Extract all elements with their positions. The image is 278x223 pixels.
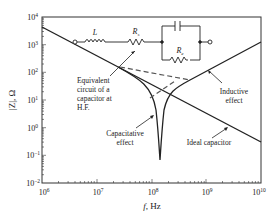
svg-text:10−1: 10−1	[26, 150, 40, 160]
svg-text:102: 102	[27, 67, 38, 77]
arrowhead-inductive	[208, 70, 211, 74]
annotation-equivalent-circuit: Equivalent circuit of a capacitor at H.F…	[77, 76, 113, 112]
arrowhead-ideal	[224, 127, 228, 131]
terminal-right	[208, 40, 212, 44]
svg-text:effect: effect	[226, 96, 244, 105]
arrow-equivalent	[110, 51, 135, 76]
svg-text:1010: 1010	[252, 187, 266, 197]
svg-text:103: 103	[27, 40, 38, 50]
svg-text:10−2: 10−2	[26, 178, 40, 188]
svg-text:106: 106	[39, 187, 50, 197]
resistor-re-symbol	[170, 57, 188, 63]
svg-text:104: 104	[27, 12, 38, 22]
arrowhead-capacitative	[150, 115, 154, 119]
svg-text:effect: effect	[117, 138, 135, 147]
svg-text:Capacitative: Capacitative	[106, 129, 144, 138]
y-axis-ticks	[42, 18, 46, 174]
svg-text:Inductive: Inductive	[220, 87, 249, 96]
inductor-symbol	[85, 40, 105, 43]
svg-text:109: 109	[202, 187, 213, 197]
svg-text:Equivalent: Equivalent	[77, 76, 110, 85]
arrowhead-equivalent	[131, 51, 135, 54]
arrow-capacitative	[136, 116, 153, 128]
circuit-label-Rs: Rs	[132, 27, 140, 37]
svg-text:100: 100	[27, 123, 38, 133]
svg-text:H.F.: H.F.	[77, 103, 90, 112]
svg-text:capacitor at: capacitor at	[77, 94, 113, 103]
capacitor-symbol	[175, 21, 180, 31]
annotation-inductive-effect: Inductive effect	[220, 87, 249, 105]
y-tick-labels: 104 103 102 101 100 10−1 10−2	[26, 12, 40, 188]
resistor-rs-symbol	[128, 39, 144, 45]
circuit-label-L: L	[92, 28, 98, 37]
impedance-chart: 104 103 102 101 100 10−1 10−2 106 107 10…	[0, 0, 278, 223]
x-axis-ticks	[59, 179, 259, 183]
x-tick-labels: 106 107 108 109 1010	[39, 187, 266, 197]
arrow-ideal	[212, 128, 227, 138]
svg-text:circuit of a: circuit of a	[77, 85, 110, 94]
svg-text:108: 108	[148, 187, 159, 197]
annotation-capacitative-effect: Capacitative effect	[106, 129, 144, 147]
y-axis-title: |Z|, Ω	[7, 90, 17, 111]
arrow-inductive	[209, 71, 222, 83]
terminal-left	[73, 40, 77, 44]
svg-text:107: 107	[93, 187, 104, 197]
annotation-ideal-capacitor: Ideal capacitor	[187, 138, 232, 147]
x-axis-title: f, Hz	[143, 201, 161, 211]
circuit-label-Re: Re	[175, 46, 184, 56]
svg-text:101: 101	[27, 95, 38, 105]
